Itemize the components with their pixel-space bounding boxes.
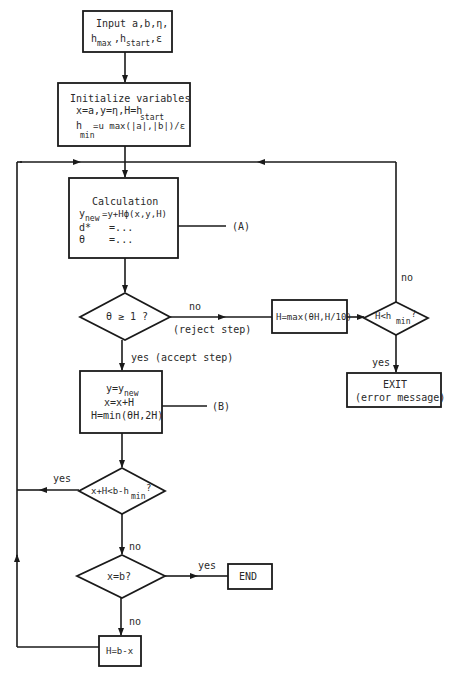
svg-text:H=b-x: H=b-x [106,646,134,656]
hmin-decision: H<h min ? [364,302,428,335]
svg-text:,h: ,h [114,33,126,44]
svg-text:H=max(θH,H/10): H=max(θH,H/10) [276,312,352,322]
step-decision: x+H<b-h min ? [79,468,165,514]
accept-step-box: y=y new x=x+H H=min(θH,2H) [80,371,163,433]
input-box: Input a,b,η, h max ,h start ,ε [83,11,172,52]
svg-text:H<h: H<h [375,311,391,321]
svg-text:,ε: ,ε [150,33,162,44]
svg-text:d* =...: d* =... [79,222,133,233]
end-no-label: no [129,616,141,627]
exit-box: EXIT (error message) [347,373,445,407]
svg-text:min: min [80,131,95,140]
flowchart: Input a,b,η, h max ,h start ,ε Initializ… [0,0,456,679]
svg-text:=y+Hϕ(x,y,H): =y+Hϕ(x,y,H) [102,209,167,219]
svg-text:h: h [76,120,82,131]
svg-text:(error message): (error message) [355,392,445,403]
calc-title: Calculation [92,196,158,207]
end-yes-label: yes [198,560,216,571]
svg-text:y=y: y=y [106,383,124,394]
step-yes-label: yes [53,473,71,484]
initialize-box: Initialize variables x=a,y=η,H=h start h… [58,83,190,146]
svg-text:EXIT: EXIT [383,379,407,390]
theta-decision: θ ≥ 1 ? [80,293,170,340]
end-box: END [228,564,272,589]
svg-text:min: min [131,492,146,501]
svg-text:θ ≥ 1 ?: θ ≥ 1 ? [106,311,148,322]
svg-text:max: max [97,39,112,48]
ref-b-label: (B) [212,401,230,412]
svg-text:min: min [396,317,411,326]
hmin-yes-label: yes [372,357,390,368]
svg-text:END: END [239,571,257,582]
svg-text:θ =...: θ =... [79,234,133,245]
calculation-box: Calculation y new =y+Hϕ(x,y,H) d* =... θ… [69,178,178,258]
ref-a-label: (A) [232,221,250,232]
svg-text:H=min(θH,2H): H=min(θH,2H) [91,410,163,421]
theta-yes-label: yes (accept step) [131,352,233,363]
last-step-box: H=b-x [99,636,141,666]
hmin-no-label: no [401,272,413,283]
svg-text:x=a,y=η,H=h: x=a,y=η,H=h [76,105,142,116]
svg-text:=u max(|a|,|b|)/ε: =u max(|a|,|b|)/ε [93,121,185,131]
theta-reject-note: (reject step) [173,324,251,335]
svg-text:x+H<b-h: x+H<b-h [91,486,129,496]
init-title: Initialize variables [70,93,190,104]
theta-no-label: no [189,301,201,312]
reject-step-box: H=max(θH,H/10) [272,300,352,333]
svg-text:?: ? [411,309,416,319]
step-no-label: no [129,541,141,552]
svg-text:x=x+H: x=x+H [104,397,134,408]
input-line1: Input a,b,η, [96,18,168,29]
svg-text:start: start [126,39,150,48]
svg-text:?: ? [146,483,151,493]
end-decision: x=b? [77,555,165,598]
svg-text:x=b?: x=b? [107,571,131,582]
